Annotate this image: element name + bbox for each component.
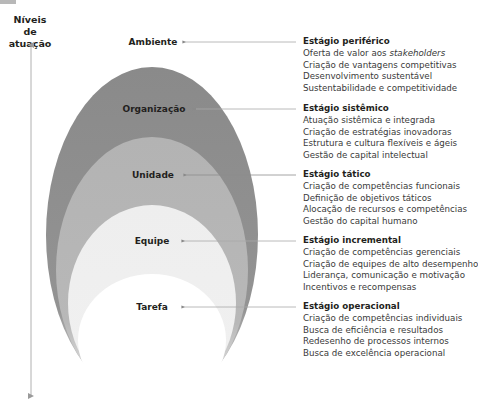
stage-title: Estágio tático: [303, 169, 467, 181]
stage-item: Criação de competências funcionais: [303, 181, 467, 193]
stage-item: Gestão do capital humano: [303, 216, 467, 228]
stage-title: Estágio periférico: [303, 36, 457, 48]
stage-item: Desenvolvimento sustentável: [303, 71, 457, 83]
stage-item: Liderança, comunicação e motivação: [303, 270, 478, 282]
stage-item: Gestão de capital intelectual: [303, 150, 457, 162]
stage-item: Criação de vantagens competitivas: [303, 60, 457, 72]
stakeholders-emphasis: stakeholders: [389, 48, 445, 58]
stage-item: Criação de equipes de alto desempenho: [303, 259, 478, 271]
stage-item: Criação de competências gerenciais: [303, 247, 478, 259]
stage-item: Criação de competências individuais: [303, 313, 462, 325]
stage-title: Estágio operacional: [303, 301, 462, 313]
stage-title: Estágio sistêmico: [303, 103, 457, 115]
stage-item: Sustentabilidade e competitividade: [303, 83, 457, 95]
stage-item: Oferta de valor aos stakeholders: [303, 48, 457, 60]
level-label-organizacao: Organização: [109, 104, 199, 114]
level-label-tarefa: Tarefa: [107, 302, 197, 312]
stage-item: Alocação de recursos e competências: [303, 204, 467, 216]
stage-item: Estrutura e cultura flexíveis e ágeis: [303, 138, 457, 150]
stage-item: Criação de estratégias inovadoras: [303, 127, 457, 139]
stage-operacional: Estágio operacional Criação de competênc…: [303, 301, 462, 360]
stage-tatico: Estágio tático Criação de competências f…: [303, 169, 467, 228]
stage-item: Atuação sistêmica e integrada: [303, 115, 457, 127]
ellipse-tarefa: [78, 274, 226, 406]
stage-item: Busca de eficiência e resultados: [303, 325, 462, 337]
stage-item: Busca de excelência operacional: [303, 348, 462, 360]
level-label-equipe: Equipe: [107, 236, 197, 246]
stage-item: Incentivos e recompensas: [303, 282, 478, 294]
stage-item: Definição de objetivos táticos: [303, 193, 467, 205]
stage-sistemico: Estágio sistêmico Atuação sistêmica e in…: [303, 103, 457, 162]
stage-periferico: Estágio periférico Oferta de valor aos s…: [303, 36, 457, 95]
stage-incremental: Estágio incremental Criação de competênc…: [303, 235, 478, 294]
stage-item: Redesenho de processos internos: [303, 336, 462, 348]
level-label-ambiente: Ambiente: [108, 37, 198, 47]
stage-title: Estágio incremental: [303, 235, 478, 247]
level-label-unidade: Unidade: [108, 170, 198, 180]
